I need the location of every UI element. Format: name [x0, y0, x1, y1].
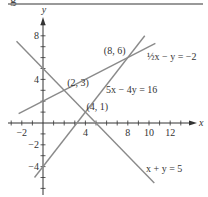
equation-label-5x-4y: 5x − 4y = 16: [106, 84, 157, 95]
x-axis-label: x: [198, 117, 204, 128]
y-tick-label: −2: [28, 139, 39, 150]
y-tick-label: 4: [34, 74, 39, 85]
plot-labels: (2, 3)(8, 6)(4, 1)½x − y = −25x − 4y = 1…: [67, 45, 196, 174]
y-tick-label: −4: [28, 161, 39, 172]
point-label-4-1: (4, 1): [86, 101, 108, 113]
line-chart: xy−248101284−2−4 (2, 3)(8, 6)(4, 1)½x − …: [0, 0, 208, 197]
y-tick-label: 8: [34, 30, 39, 41]
x-axis-arrow-icon: [189, 121, 197, 126]
x-tick-label: 4: [83, 127, 88, 138]
point-label-8-6: (8, 6): [104, 45, 126, 57]
x-tick-label: −2: [16, 127, 27, 138]
x-tick-label: 12: [165, 127, 175, 138]
x-tick-label: 8: [125, 127, 130, 138]
point-label-2-3: (2, 3): [67, 77, 89, 89]
equation-label-half-x: ½x − y = −2: [147, 51, 196, 62]
equation-label-x-plus-y: x + y = 5: [146, 163, 182, 174]
y-axis-label: y: [41, 4, 47, 15]
y-axis-arrow-icon: [41, 17, 46, 25]
x-tick-label: 10: [144, 127, 154, 138]
